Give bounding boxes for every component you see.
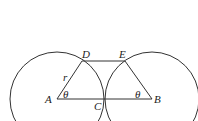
label-angle-b: θ (135, 88, 141, 100)
segment-ad (57, 61, 82, 99)
label-point-b: B (154, 93, 161, 105)
label-point-e: E (118, 48, 126, 60)
label-point-d: D (81, 48, 90, 60)
label-point-c: C (94, 100, 102, 112)
label-radius: r (63, 71, 68, 83)
label-point-a: A (44, 93, 52, 105)
label-angle-a: θ (63, 88, 69, 100)
circle-a (10, 52, 104, 121)
geometry-diagram: A B C D E r θ θ (0, 0, 198, 121)
circle-b (105, 52, 198, 121)
